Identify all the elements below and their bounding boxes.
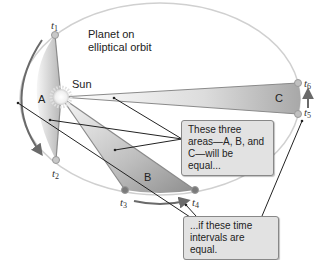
time-label-t5: t5 <box>304 107 311 121</box>
orbit-title-line2: elliptical orbit <box>88 41 152 54</box>
callout-equal-areas: These three areas—A, B, and C—will be eq… <box>181 120 274 176</box>
callout-equal-intervals: ...if these time intervals are equal. <box>183 216 279 260</box>
time-label-t6: t6 <box>304 78 311 92</box>
marker-t4 <box>192 187 199 194</box>
callout-intervals-line1: ...if these time <box>190 220 272 232</box>
orbit-title-line1: Planet on <box>88 28 152 41</box>
area-a-label: A <box>38 93 45 105</box>
callout-intervals-line2: intervals are equal. <box>190 232 272 256</box>
area-c-label: C <box>275 92 283 104</box>
callout-areas-line2: areas—A, B, and <box>188 136 267 148</box>
time-label-t1: t1 <box>51 20 58 34</box>
marker-t2 <box>53 157 60 164</box>
arrow-t3-t4 <box>134 201 186 204</box>
time-label-t4: t4 <box>192 197 199 211</box>
time-label-t3: t3 <box>120 197 127 211</box>
area-c-sector <box>61 83 301 114</box>
area-b-label: B <box>144 171 151 183</box>
sun-label: Sun <box>72 78 92 90</box>
callout-areas-line1: These three <box>188 124 267 136</box>
callout-areas-line3: C—will be equal... <box>188 148 267 172</box>
marker-t3 <box>122 187 129 194</box>
orbit-title: Planet on elliptical orbit <box>88 28 152 54</box>
time-label-t2: t2 <box>52 168 59 182</box>
marker-t6 <box>295 80 302 87</box>
marker-t5 <box>295 111 302 118</box>
